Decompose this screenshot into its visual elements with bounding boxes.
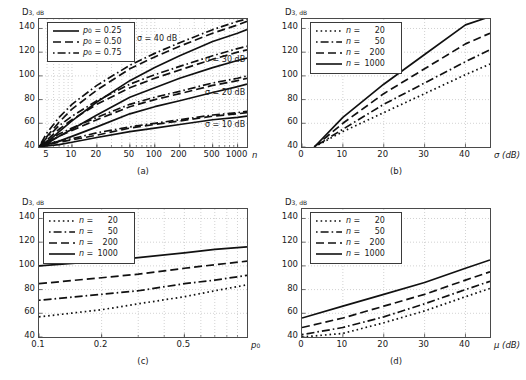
y-axis-title-c: D3, dB bbox=[22, 197, 44, 207]
subplot-label-a: (a) bbox=[123, 166, 163, 176]
y-tick-label: 140 bbox=[271, 211, 298, 221]
x-tick-label: 20 bbox=[363, 149, 403, 159]
legend-line-dashed bbox=[314, 48, 344, 58]
legend-label: n = 20 bbox=[77, 216, 118, 225]
legend-line-solid bbox=[47, 249, 77, 259]
legend-item: n = 50 bbox=[314, 226, 398, 237]
legend-line-dashed bbox=[51, 37, 81, 47]
x-tick-label: 40 bbox=[444, 149, 484, 159]
legend-item: n = 50 bbox=[47, 226, 131, 237]
legend-item: n = 1000 bbox=[47, 248, 131, 259]
panel-a: D3, dB n (a) p0 = 0.25 p0 = 0.50 bbox=[0, 0, 263, 190]
legend-item: n = 50 bbox=[314, 36, 398, 47]
legend-line-dashdot bbox=[314, 227, 344, 237]
legend-line-solid bbox=[314, 249, 344, 259]
x-tick-label: 0 bbox=[281, 339, 321, 349]
legend-panel-d: n = 20n = 50n = 200n = 1000 bbox=[310, 212, 402, 264]
y-tick-label: 120 bbox=[8, 45, 35, 55]
legend-panel-b: n = 20n = 50n = 200n = 1000 bbox=[310, 22, 402, 74]
y-tick-label: 140 bbox=[271, 21, 298, 31]
data-series-line bbox=[302, 272, 490, 328]
legend-line-dashed bbox=[47, 238, 77, 248]
y-tick-label: 60 bbox=[8, 306, 35, 316]
legend-label: n = 200 bbox=[344, 48, 385, 57]
x-tick-label: 0.2 bbox=[81, 339, 121, 349]
annotation-sigma-10: σ = 10 dB bbox=[205, 120, 245, 129]
legend-item: n = 200 bbox=[314, 237, 398, 248]
legend-label: p0 = 0.50 bbox=[81, 37, 122, 46]
x-tick-label: 0.5 bbox=[163, 339, 203, 349]
data-series-line bbox=[302, 288, 490, 337]
legend-item: n = 20 bbox=[314, 215, 398, 226]
y-tick-label: 80 bbox=[271, 283, 298, 293]
subplot-label-d: (d) bbox=[376, 356, 416, 366]
legend-line-dashed bbox=[314, 238, 344, 248]
y-tick-label: 140 bbox=[8, 211, 35, 221]
x-tick-label: 0.1 bbox=[18, 339, 58, 349]
y-tick-label: 120 bbox=[271, 45, 298, 55]
annotation-sigma-30: σ = 30 dB bbox=[205, 55, 245, 64]
legend-item: n = 20 bbox=[47, 215, 131, 226]
y-tick-label: 60 bbox=[271, 116, 298, 126]
legend-label: n = 1000 bbox=[77, 249, 118, 258]
legend-panel-a: p0 = 0.25 p0 = 0.50 p0 = 0.75 bbox=[47, 22, 135, 62]
y-tick-label: 80 bbox=[271, 93, 298, 103]
legend-panel-c: n = 20n = 50n = 200n = 1000 bbox=[43, 212, 135, 264]
x-axis-title-b: σ (dB) bbox=[494, 150, 520, 160]
x-tick-label: 10 bbox=[322, 149, 362, 159]
legend-line-dashdot bbox=[47, 227, 77, 237]
legend-line-dotted bbox=[47, 216, 77, 226]
x-tick-label: 30 bbox=[404, 339, 444, 349]
legend-item: n = 1000 bbox=[314, 58, 398, 69]
legend-label: n = 50 bbox=[344, 227, 385, 236]
legend-item: n = 200 bbox=[314, 47, 398, 58]
data-series-line bbox=[39, 50, 247, 147]
x-tick-label: 30 bbox=[404, 149, 444, 159]
legend-item: n = 1000 bbox=[314, 248, 398, 259]
y-tick-label: 140 bbox=[8, 21, 35, 31]
y-tick-label: 60 bbox=[271, 306, 298, 316]
legend-label: n = 1000 bbox=[344, 59, 385, 68]
data-series-line bbox=[302, 260, 490, 318]
legend-label: n = 200 bbox=[344, 238, 385, 247]
legend-line-dashdot bbox=[51, 48, 81, 58]
legend-label: n = 20 bbox=[344, 216, 385, 225]
legend-label: n = 50 bbox=[344, 37, 385, 46]
x-axis-title-c: p0 bbox=[251, 340, 260, 350]
x-tick-label: 40 bbox=[444, 339, 484, 349]
legend-item: p0 = 0.25 bbox=[51, 25, 131, 36]
legend-item: p0 = 0.75 bbox=[51, 47, 131, 58]
legend-item: n = 20 bbox=[314, 25, 398, 36]
x-tick-label: 0 bbox=[281, 149, 321, 159]
annotation-sigma-40: σ = 40 dB bbox=[137, 34, 177, 43]
y-tick-label: 100 bbox=[8, 259, 35, 269]
subplot-label-c: (c) bbox=[123, 356, 163, 366]
legend-item: n = 200 bbox=[47, 237, 131, 248]
x-tick-label: 10 bbox=[322, 339, 362, 349]
y-tick-label: 80 bbox=[8, 283, 35, 293]
y-tick-label: 100 bbox=[271, 69, 298, 79]
figure-container: D3, dB n (a) p0 = 0.25 p0 = 0.50 bbox=[0, 0, 526, 380]
legend-line-solid bbox=[314, 59, 344, 69]
y-axis-title-b: D3, dB bbox=[285, 7, 307, 17]
y-tick-label: 80 bbox=[8, 93, 35, 103]
y-axis-title-a: D3, dB bbox=[22, 7, 44, 17]
data-series-line bbox=[39, 275, 247, 300]
legend-label: p0 = 0.25 bbox=[81, 26, 122, 35]
legend-label: n = 50 bbox=[77, 227, 118, 236]
y-tick-label: 120 bbox=[271, 235, 298, 245]
y-tick-label: 100 bbox=[8, 69, 35, 79]
data-series-line bbox=[314, 64, 490, 147]
x-tick-label: 20 bbox=[363, 339, 403, 349]
legend-line-solid bbox=[51, 26, 81, 36]
y-axis-title-d: D3, dB bbox=[285, 197, 307, 207]
legend-item: p0 = 0.50 bbox=[51, 36, 131, 47]
x-tick-label: 1000 bbox=[217, 149, 257, 159]
legend-label: n = 200 bbox=[77, 238, 118, 247]
legend-label: n = 1000 bbox=[344, 249, 385, 258]
legend-line-dashdot bbox=[314, 37, 344, 47]
legend-line-dotted bbox=[314, 26, 344, 36]
panel-b: D3, dB σ (dB) (b) n = 20n = 50n = 200n =… bbox=[263, 0, 526, 190]
panel-c: D3, dB p0 (c) n = 20n = 50n = 200n = 100… bbox=[0, 190, 263, 380]
x-axis-title-d: μ (dB) bbox=[494, 340, 520, 350]
